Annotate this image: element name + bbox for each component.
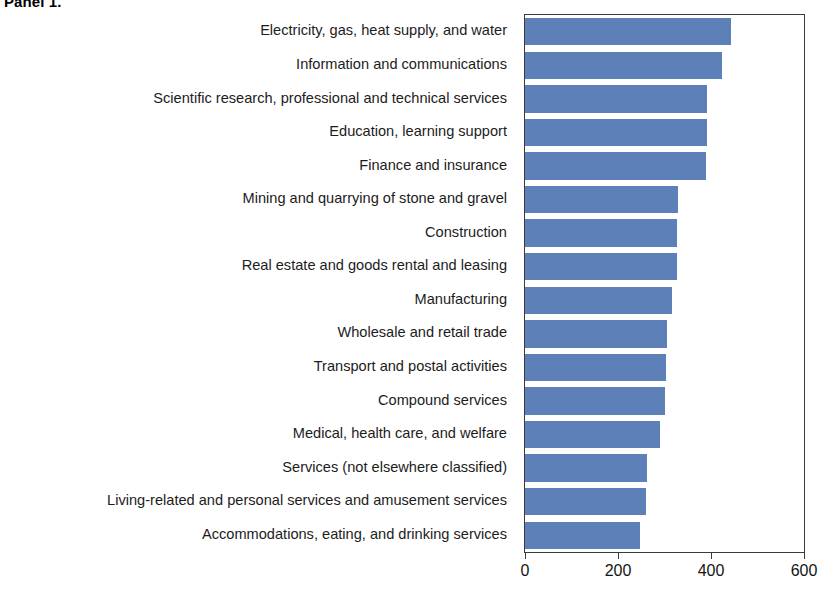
x-axis-tick-label: 600	[791, 562, 818, 580]
bar-row	[525, 186, 804, 213]
bar	[525, 52, 722, 79]
x-axis-tick	[804, 553, 805, 559]
bar-row	[525, 219, 804, 246]
bar	[525, 152, 706, 179]
category-label: Scientific research, professional and te…	[0, 91, 516, 106]
bars-layer	[525, 15, 804, 552]
bar	[525, 454, 647, 481]
x-axis-tick	[525, 553, 526, 559]
horizontal-bar-chart: Electricity, gas, heat supply, and water…	[0, 0, 824, 608]
category-label: Real estate and goods rental and leasing	[0, 258, 516, 273]
bar	[525, 186, 678, 213]
category-label: Education, learning support	[0, 124, 516, 139]
x-axis-tick	[618, 553, 619, 559]
category-axis-labels: Electricity, gas, heat supply, and water…	[0, 14, 516, 553]
category-label: Transport and postal activities	[0, 359, 516, 374]
bar	[525, 85, 707, 112]
chart-screenshot: Panel 1. Electricity, gas, heat supply, …	[0, 0, 824, 608]
category-label: Medical, health care, and welfare	[0, 426, 516, 441]
category-label: Construction	[0, 225, 516, 240]
category-label: Finance and insurance	[0, 158, 516, 173]
bar	[525, 18, 731, 45]
category-label: Compound services	[0, 393, 516, 408]
x-axis-tick-label: 400	[698, 562, 725, 580]
bar-row	[525, 488, 804, 515]
bar-row	[525, 354, 804, 381]
category-label: Living-related and personal services and…	[0, 493, 516, 508]
category-label: Information and communications	[0, 57, 516, 72]
bar-row	[525, 85, 804, 112]
bar-row	[525, 119, 804, 146]
bar	[525, 119, 707, 146]
bar-row	[525, 287, 804, 314]
bar-row	[525, 454, 804, 481]
bar-row	[525, 18, 804, 45]
category-label: Accommodations, eating, and drinking ser…	[0, 527, 516, 542]
category-label: Wholesale and retail trade	[0, 325, 516, 340]
x-axis-tick-label: 0	[521, 562, 530, 580]
bar-row	[525, 522, 804, 549]
bar-row	[525, 152, 804, 179]
bar	[525, 219, 677, 246]
bar	[525, 287, 672, 314]
bar	[525, 354, 666, 381]
category-label: Mining and quarrying of stone and gravel	[0, 191, 516, 206]
bar-row	[525, 387, 804, 414]
category-label: Manufacturing	[0, 292, 516, 307]
bar-row	[525, 320, 804, 347]
bar-row	[525, 421, 804, 448]
bar	[525, 488, 646, 515]
bar	[525, 421, 660, 448]
x-axis-tick	[711, 553, 712, 559]
bar	[525, 320, 667, 347]
bar	[525, 253, 677, 280]
bar-row	[525, 253, 804, 280]
category-label: Services (not elsewhere classified)	[0, 460, 516, 475]
bar	[525, 387, 665, 414]
bar-row	[525, 52, 804, 79]
category-label: Electricity, gas, heat supply, and water	[0, 23, 516, 38]
bar	[525, 522, 640, 549]
x-axis-tick-label: 200	[605, 562, 632, 580]
